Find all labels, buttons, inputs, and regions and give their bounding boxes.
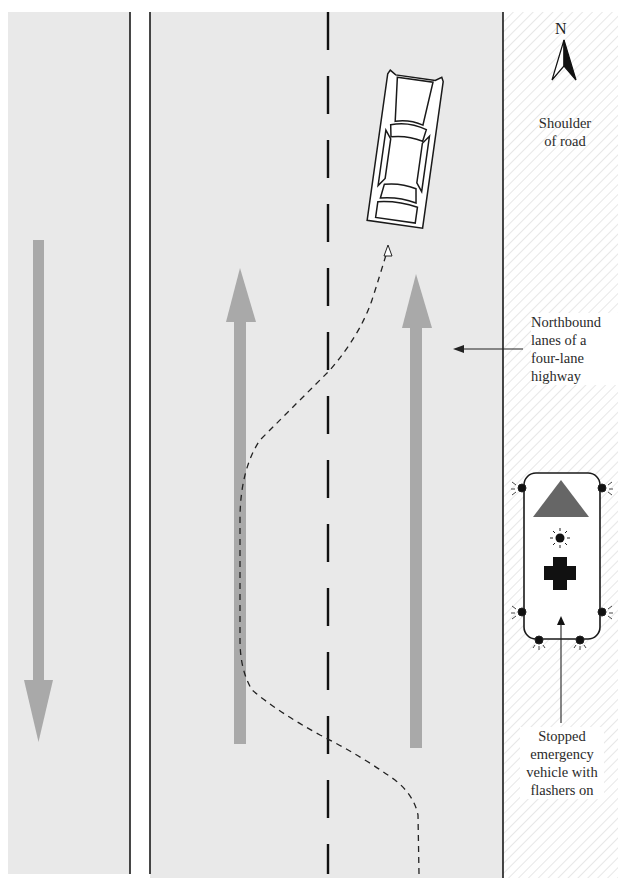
southbound-road xyxy=(8,12,130,874)
compass-north-label: N xyxy=(555,20,567,38)
northbound-road xyxy=(150,12,503,878)
emergency-vehicle-label: Stopped emergency vehicle with flashers … xyxy=(520,727,604,799)
beacon-light-icon xyxy=(550,528,570,548)
northbound-label: Northbound lanes of a four-lane highway xyxy=(531,313,621,385)
shoulder-label: Shoulder of road xyxy=(525,114,605,150)
